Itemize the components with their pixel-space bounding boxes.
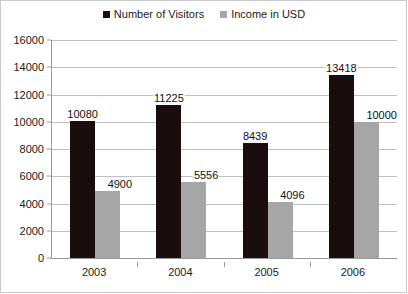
bar-2004-income	[181, 182, 206, 258]
bar-2004-visitors	[156, 105, 181, 258]
bar-label-2003-income: 4900	[107, 178, 133, 190]
y-tick-label: 14000	[13, 61, 44, 73]
x-tick-label-2005: 2005	[254, 266, 278, 278]
bar-label-2004-visitors: 11225	[153, 92, 185, 104]
gridline	[52, 40, 397, 41]
x-tick-mark	[310, 262, 311, 267]
x-axis: 2003200420052006	[51, 262, 396, 282]
bar-2006-visitors	[329, 75, 354, 258]
bar-label-2005-income: 4096	[279, 189, 305, 201]
legend-item-income: Income in USD	[220, 8, 305, 20]
plot-area: 100804900112255556843940961341810000	[51, 40, 397, 259]
x-tick-mark	[137, 262, 138, 267]
x-tick-label-2004: 2004	[168, 266, 192, 278]
bar-2005-visitors	[243, 143, 268, 258]
legend-label-income: Income in USD	[231, 8, 305, 20]
y-axis: 0200040006000800010000120001400016000	[0, 40, 44, 258]
y-tick-label: 10000	[13, 116, 44, 128]
legend-swatch-visitors-icon	[103, 11, 110, 18]
y-tick-label: 2000	[20, 225, 44, 237]
legend-label-visitors: Number of Visitors	[114, 8, 204, 20]
x-tick-mark	[224, 262, 225, 267]
y-tick-label: 0	[38, 252, 44, 264]
y-tick-label: 6000	[20, 170, 44, 182]
bar-chart: Number of Visitors Income in USD 0200040…	[0, 0, 408, 294]
bar-2005-income	[268, 202, 293, 258]
bar-2006-income	[354, 122, 379, 258]
x-tick-label-2003: 2003	[82, 266, 106, 278]
bar-2003-income	[95, 191, 120, 258]
x-tick-label-2006: 2006	[341, 266, 365, 278]
chart-legend: Number of Visitors Income in USD	[0, 6, 408, 22]
y-tick-label: 16000	[13, 34, 44, 46]
y-tick-label: 12000	[13, 89, 44, 101]
bar-2003-visitors	[70, 121, 95, 258]
y-tick-label: 4000	[20, 198, 44, 210]
bar-label-2006-visitors: 13418	[325, 62, 358, 74]
legend-item-visitors: Number of Visitors	[103, 8, 204, 20]
bar-label-2005-visitors: 8439	[242, 130, 268, 142]
legend-swatch-income-icon	[220, 11, 227, 18]
bar-label-2004-income: 5556	[193, 169, 219, 181]
bar-label-2006-income: 10000	[365, 109, 398, 121]
bar-label-2003-visitors: 10080	[66, 108, 99, 120]
y-tick-label: 8000	[20, 143, 44, 155]
